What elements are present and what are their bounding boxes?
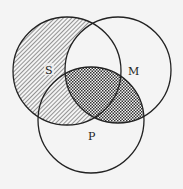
label-s: S [45,64,53,77]
venn-diagram: S M P [0,0,183,189]
label-m: M [128,65,139,78]
label-p: P [88,130,96,143]
